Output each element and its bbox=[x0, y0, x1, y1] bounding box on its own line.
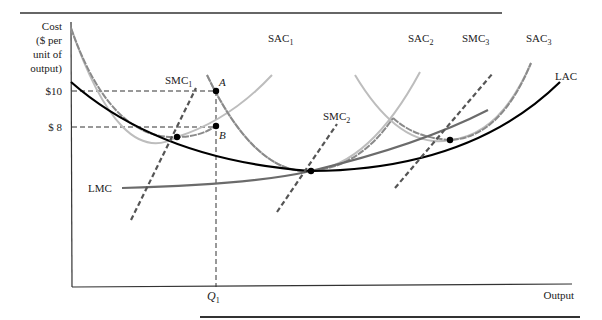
sac2-curve bbox=[207, 72, 420, 171]
label-sac3: SAC3 bbox=[526, 32, 551, 47]
chart-svg: Cost ($ per unit of output) $10 $ 8 Q1 O… bbox=[0, 0, 602, 320]
ytick-10: $10 bbox=[46, 85, 63, 97]
label-sac2: SAC2 bbox=[408, 32, 433, 47]
y-label-line4: output) bbox=[30, 62, 62, 75]
label-sac1: SAC1 bbox=[268, 32, 293, 47]
x-axis bbox=[72, 284, 572, 287]
x-axis-label: Output bbox=[543, 289, 574, 301]
y-label-line2: ($ per bbox=[36, 34, 62, 47]
label-lmc: LMC bbox=[88, 182, 112, 194]
label-point-a: A bbox=[218, 76, 226, 88]
sac2-min-point bbox=[308, 168, 314, 174]
lmc-curve bbox=[122, 110, 488, 188]
sac3-envelope bbox=[393, 63, 531, 140]
sac1-min-point bbox=[174, 134, 180, 140]
label-smc2: SMC2 bbox=[323, 110, 350, 125]
point-a bbox=[213, 88, 219, 94]
smc1-curve bbox=[131, 88, 196, 220]
label-smc3: SMC3 bbox=[462, 32, 489, 47]
y-label-line1: Cost bbox=[42, 20, 62, 32]
ytick-8: $ 8 bbox=[48, 121, 62, 133]
sac3-min-point bbox=[447, 137, 453, 143]
label-lac: LAC bbox=[555, 70, 577, 82]
y-axis bbox=[71, 22, 72, 287]
y-label-line3: unit of bbox=[33, 48, 62, 60]
label-point-b: B bbox=[219, 129, 226, 141]
xtick-q1: Q1 bbox=[207, 289, 220, 305]
cost-curves-figure: Cost ($ per unit of output) $10 $ 8 Q1 O… bbox=[0, 0, 602, 320]
label-smc1: SMC1 bbox=[165, 74, 192, 89]
